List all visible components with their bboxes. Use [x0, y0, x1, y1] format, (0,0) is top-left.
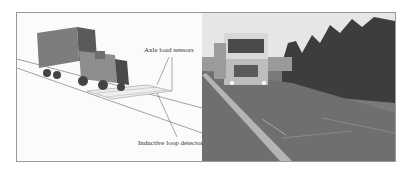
road-photo-panel: [202, 13, 395, 161]
wim-schematic-panel: Axle load sensors Inductive loop detecto…: [17, 13, 202, 161]
road-photo: [202, 13, 395, 161]
figure-frame: Axle load sensors Inductive loop detecto…: [16, 12, 396, 162]
axle-load-sensors-label: Axle load sensors: [144, 46, 194, 54]
inductive-loop-detector-label: Inductive loop detector: [138, 139, 202, 147]
